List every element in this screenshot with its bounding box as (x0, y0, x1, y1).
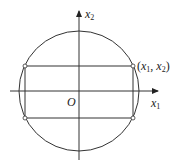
diagram-canvas: x2 x1 O (x1, x2) (0, 0, 186, 167)
x2-axis-label: x2 (85, 8, 94, 22)
point-label: (x1, x2) (137, 60, 170, 74)
corner-point-bottom-right (131, 116, 135, 120)
corner-point-bottom-left (23, 116, 27, 120)
x1-axis-label: x1 (151, 97, 160, 111)
corner-point-top-right (131, 64, 135, 68)
origin-label: O (67, 96, 76, 108)
diagram-graphics (0, 0, 186, 167)
corner-point-top-left (23, 64, 27, 68)
